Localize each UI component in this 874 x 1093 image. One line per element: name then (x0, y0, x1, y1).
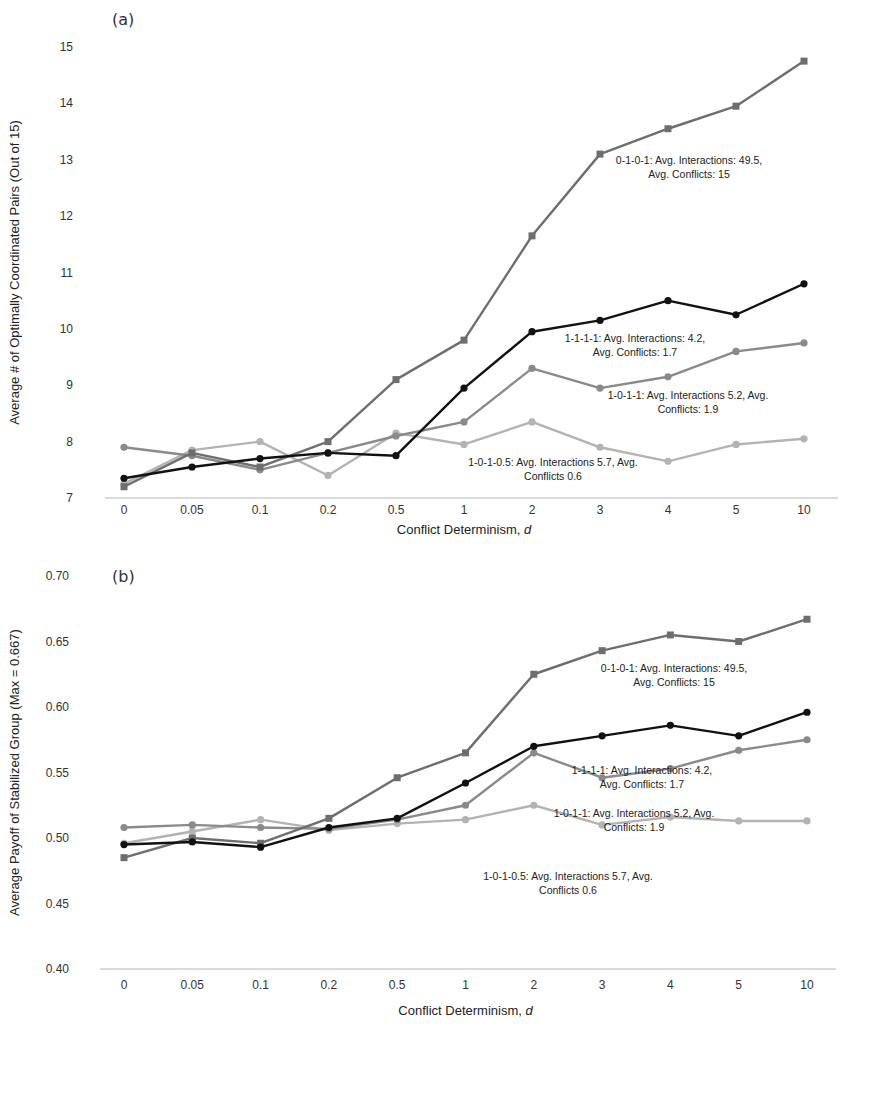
circle-marker (462, 779, 469, 786)
circle-marker (460, 384, 467, 391)
circle-marker (324, 449, 331, 456)
series-annotation: 0-1-0-1: Avg. Interactions: 49.5,Avg. Co… (601, 662, 747, 688)
series-annotation: 1-1-1-1: Avg. Interactions: 4.2,Avg. Con… (572, 764, 712, 790)
circle-marker (257, 824, 264, 831)
square-marker (257, 463, 264, 470)
circle-marker (530, 802, 537, 809)
circle-marker (462, 802, 469, 809)
square-marker (121, 854, 128, 861)
y-tick-label: 0.55 (46, 766, 70, 780)
circle-marker (596, 384, 603, 391)
x-tick-label: 0.5 (389, 978, 406, 992)
square-marker (393, 376, 400, 383)
series-annotation: 1-0-1-0.5: Avg. Interactions 5.7, Avg.Co… (468, 456, 637, 482)
chart-b-plot: 0.400.450.500.550.600.650.7000.050.10.20… (0, 555, 874, 1093)
y-tick-label: 15 (60, 40, 74, 54)
y-tick-label: 9 (66, 378, 73, 392)
x-tick-label: 2 (530, 978, 537, 992)
y-tick-label: 8 (66, 435, 73, 449)
x-tick-label: 0.1 (252, 978, 269, 992)
x-tick-label: 1 (462, 978, 469, 992)
circle-marker (392, 452, 399, 459)
circle-marker (735, 732, 742, 739)
x-tick-label: 1 (461, 503, 468, 517)
circle-marker (394, 815, 401, 822)
y-tick-label: 10 (60, 322, 74, 336)
x-tick-label: 4 (665, 503, 672, 517)
square-marker (804, 616, 811, 623)
x-tick-label: 0.2 (321, 978, 338, 992)
circle-marker (803, 736, 810, 743)
square-marker (121, 483, 128, 490)
circle-marker (800, 280, 807, 287)
circle-marker (800, 435, 807, 442)
series-line (124, 422, 804, 484)
series-1-0-1-0.5 (120, 418, 807, 487)
y-tick-label: 0.65 (46, 635, 70, 649)
y-tick-label: 12 (60, 209, 74, 223)
y-tick-label: 0.70 (46, 569, 70, 583)
square-marker (529, 232, 536, 239)
circle-marker (530, 743, 537, 750)
y-axis-title: Average # of Optimally Coordinated Pairs… (7, 120, 22, 425)
circle-marker (732, 348, 739, 355)
circle-marker (256, 455, 263, 462)
x-tick-label: 0.5 (388, 503, 405, 517)
circle-marker (120, 444, 127, 451)
circle-marker (667, 722, 674, 729)
square-marker (325, 438, 332, 445)
circle-marker (596, 317, 603, 324)
circle-marker (189, 821, 196, 828)
circle-marker (257, 844, 264, 851)
chart-a-coordinated-pairs: 78910111213141500.050.10.20.51234510Conf… (0, 0, 874, 550)
square-marker (735, 638, 742, 645)
circle-marker (599, 732, 606, 739)
circle-marker (664, 297, 671, 304)
circle-marker (803, 709, 810, 716)
series-1-1-1-1 (120, 709, 810, 851)
circle-marker (803, 817, 810, 824)
square-marker (599, 647, 606, 654)
x-tick-label: 0.05 (181, 978, 205, 992)
circle-marker (528, 328, 535, 335)
circle-marker (460, 441, 467, 448)
x-tick-label: 3 (597, 503, 604, 517)
circle-marker (189, 838, 196, 845)
chart-b-stabilized-payoff: 0.400.450.500.550.600.650.7000.050.10.20… (0, 555, 874, 1093)
x-tick-label: 5 (733, 503, 740, 517)
square-marker (597, 151, 604, 158)
circle-marker (460, 418, 467, 425)
y-axis-title: Average Payoff of Stabilized Group (Max … (7, 629, 22, 916)
panel-label: (a) (112, 10, 134, 29)
y-tick-label: 13 (60, 153, 74, 167)
chart-a-plot: 78910111213141500.050.10.20.51234510Conf… (0, 0, 874, 550)
circle-marker (800, 339, 807, 346)
y-tick-label: 11 (61, 266, 74, 280)
circle-marker (189, 828, 196, 835)
series-annotation: 1-1-1-1: Avg. Interactions: 4.2,Avg. Con… (565, 332, 705, 358)
circle-marker (664, 458, 671, 465)
circle-marker (257, 816, 264, 823)
x-tick-label: 2 (529, 503, 536, 517)
y-tick-label: 14 (60, 96, 74, 110)
x-tick-label: 0 (121, 978, 128, 992)
series-0-1-0-1 (121, 616, 811, 861)
series-annotation: 1-0-1-1: Avg. Interactions 5.2, Avg.Conf… (608, 389, 769, 415)
square-marker (325, 815, 332, 822)
circle-marker (188, 463, 195, 470)
square-marker (530, 671, 537, 678)
x-axis-title: Conflict Determinism, d (398, 1003, 533, 1018)
circle-marker (325, 824, 332, 831)
x-tick-label: 0.1 (252, 503, 269, 517)
series-annotation: 0-1-0-1: Avg. Interactions: 49.5,Avg. Co… (616, 154, 762, 180)
series-annotation: 1-0-1-1: Avg. Interactions 5.2, Avg.Conf… (554, 807, 715, 833)
y-tick-label: 7 (66, 491, 73, 505)
y-tick-label: 0.50 (46, 831, 70, 845)
x-tick-label: 0.2 (320, 503, 337, 517)
circle-marker (732, 441, 739, 448)
circle-marker (664, 373, 671, 380)
square-marker (801, 58, 808, 65)
circle-marker (120, 824, 127, 831)
circle-marker (530, 749, 537, 756)
circle-marker (392, 432, 399, 439)
